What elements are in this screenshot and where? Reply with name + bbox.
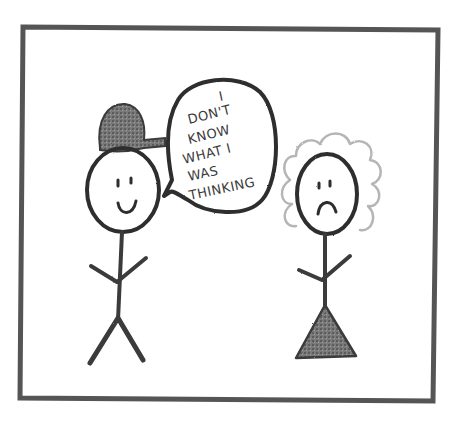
listener-head: [297, 154, 357, 234]
cap-icon: [99, 104, 165, 151]
triangle-dress: [296, 305, 356, 358]
comic-panel: I DON'T KNOW WHAT I WAS THINKING: [0, 0, 458, 425]
frown-icon: [318, 202, 336, 214]
speaker-figure: [87, 104, 165, 363]
smile-icon: [118, 201, 136, 213]
listener-figure: [282, 134, 381, 359]
speaker-head: [87, 148, 159, 232]
